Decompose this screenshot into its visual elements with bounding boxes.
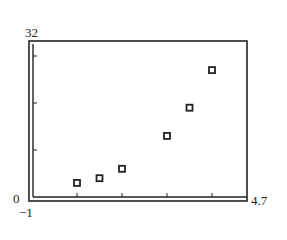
plot-frame — [29, 41, 247, 201]
data-point — [164, 133, 170, 139]
ymax-label: 32 — [25, 25, 38, 40]
data-point — [119, 166, 125, 172]
data-point — [97, 175, 103, 181]
scatter-plot: 32 0 −1 4.7 — [0, 0, 287, 240]
data-points — [74, 67, 215, 186]
data-point — [209, 67, 215, 73]
axis-ticks — [33, 56, 212, 197]
xmin-label: −1 — [19, 205, 33, 220]
ymin-label: 0 — [13, 191, 20, 206]
data-point — [187, 105, 193, 111]
xmax-label: 4.7 — [251, 193, 268, 208]
data-point — [74, 180, 80, 186]
